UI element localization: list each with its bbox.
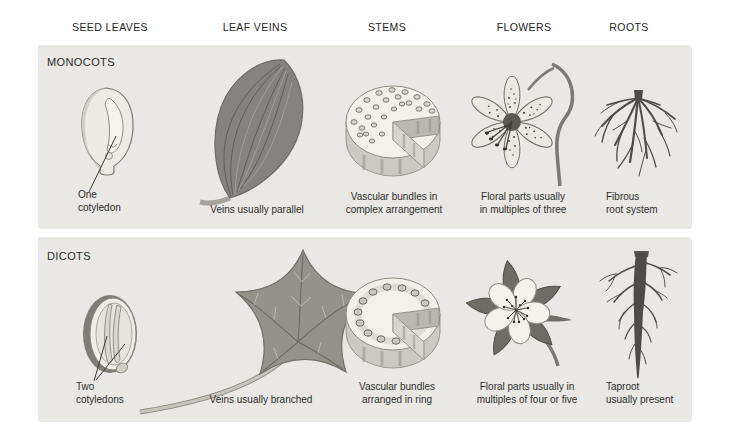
column-header-flowers: FLOWERS (497, 21, 552, 33)
column-header-seed-leaves: SEED LEAVES (72, 21, 148, 33)
monocots-title: MONOCOTS (47, 56, 115, 68)
column-header-roots: ROOTS (609, 21, 648, 33)
monocot-root-caption: Fibrous root system (606, 191, 658, 216)
monocot-seed-illustration (78, 86, 140, 196)
monocot-stem-caption: Vascular bundles in complex arrangement (346, 191, 443, 216)
monocot-stem-illustration (338, 78, 454, 178)
dicot-root-illustration (596, 250, 684, 382)
dicot-stem-illustration (338, 270, 454, 370)
lily-petals (468, 76, 555, 168)
dicot-flower-caption: Floral parts usually in multiples of fou… (477, 381, 578, 406)
column-header-leaf-veins: LEAF VEINS (223, 21, 288, 33)
columbine-petals (465, 259, 563, 358)
dicot-flower-illustration (458, 258, 588, 380)
dicot-leaf-caption: Veins usually branched (210, 394, 313, 407)
dicot-stem-caption: Vascular bundles arranged in ring (359, 381, 435, 406)
column-header-stems: STEMS (368, 21, 406, 33)
monocot-flower-illustration (462, 62, 586, 190)
flower-stem (552, 64, 572, 186)
monocot-leaf-caption: Veins usually parallel (210, 204, 303, 217)
monocot-dicot-comparison-figure: SEED LEAVES LEAF VEINS STEMS FLOWERS ROO… (0, 0, 729, 438)
dicot-seed-caption: Two cotyledons (76, 381, 124, 406)
monocot-seed-caption: One cotyledon (78, 189, 121, 214)
dicot-root-caption: Taproot usually present (606, 381, 673, 406)
fibrous-roots (595, 98, 677, 176)
dicots-title: DICOTS (47, 250, 91, 262)
monocot-leaf-illustration (192, 56, 324, 208)
monocot-root-illustration (592, 88, 684, 188)
monocot-flower-caption: Floral parts usually in multiples of thr… (480, 191, 567, 216)
leaf-stalk (200, 198, 230, 203)
